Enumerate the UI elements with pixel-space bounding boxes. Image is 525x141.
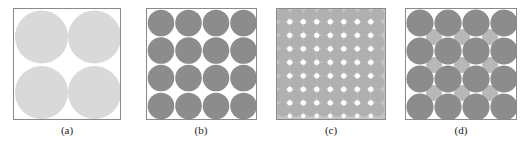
panel-a-caption: (a) [47, 124, 87, 136]
panel-b-caption: (b) [181, 124, 221, 136]
panel-b-circles [147, 9, 257, 120]
panel-a-frame [13, 8, 121, 120]
panel-d-caption: (d) [441, 124, 481, 136]
panel-c-caption: (c) [311, 124, 351, 136]
panel-d-circles [406, 9, 517, 120]
panel-d-frame [405, 8, 517, 120]
panel-c-circles [277, 9, 386, 120]
panel-b-frame [146, 8, 257, 120]
panel-c-frame [276, 8, 386, 120]
panel-a-circles [14, 9, 121, 120]
